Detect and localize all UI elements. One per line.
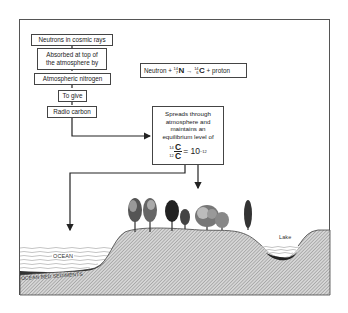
flow-step-absorbed: Absorbed at top of the atmosphere by: [37, 48, 107, 70]
ratio-fraction: C C: [174, 143, 182, 160]
tree: [244, 200, 252, 230]
nitrogen-isotope-numbers: 147: [174, 67, 178, 75]
carbon-symbol: C: [199, 66, 205, 75]
equilibrium-text-line: maintains an: [153, 125, 223, 133]
equation-proton: proton: [212, 67, 230, 74]
ocean-label: OCEAN: [52, 253, 74, 259]
equilibrium-text-line: equilibrium level of: [153, 133, 223, 141]
nitrogen-atomic-number: 7: [174, 71, 178, 75]
ratio-bottom-mass: 12: [169, 152, 173, 160]
tree: [215, 212, 229, 230]
flow-step-label-line: the atmosphere by: [40, 59, 104, 67]
tree: [180, 209, 190, 229]
equation-plus: +: [168, 67, 172, 74]
tree: [128, 198, 142, 232]
carbon-ratio: 14 12 C C = 10−12: [169, 143, 207, 160]
ratio-exponent: −12: [200, 148, 207, 156]
carbon-atomic-number: 6: [194, 71, 198, 75]
tree: [165, 200, 179, 231]
tree: [143, 198, 157, 232]
ratio-value: = 10: [183, 148, 200, 156]
flow-step-label: Atmospheric nitrogen: [43, 75, 103, 82]
equilibrium-box: Spreads through atmosphere and maintains…: [152, 106, 224, 165]
flow-step-label-line: Absorbed at top of: [40, 51, 104, 59]
reaction-arrow-icon: →: [186, 67, 192, 74]
nitrogen-symbol: N: [179, 66, 185, 75]
ratio-top-mass: 14: [169, 144, 173, 152]
carbon-isotope-numbers: 146: [194, 67, 198, 75]
equation-neutron: Neutron: [144, 67, 166, 74]
flow-step-label: Radio carbon: [53, 108, 90, 115]
equation-plus: +: [207, 67, 211, 74]
equilibrium-text-line: atmosphere and: [153, 118, 223, 126]
ratio-mass-numbers: 14 12: [169, 144, 173, 160]
equilibrium-text-line: Spreads through: [153, 110, 223, 118]
flow-step-neutrons: Neutrons in cosmic rays: [31, 34, 113, 46]
trees: [128, 198, 252, 232]
lake-label: Lake: [279, 234, 291, 240]
flow-step-radio-carbon: Radio carbon: [47, 106, 97, 118]
flow-step-label: Neutrons in cosmic rays: [38, 36, 105, 43]
flow-step-to-give: To give: [58, 90, 87, 102]
nuclear-reaction-equation: Neutron + 147N → 146C + proton: [140, 63, 247, 78]
ratio-denominator: C: [175, 152, 181, 160]
flow-step-label: To give: [63, 92, 83, 99]
flow-step-nitrogen: Atmospheric nitrogen: [34, 73, 111, 85]
